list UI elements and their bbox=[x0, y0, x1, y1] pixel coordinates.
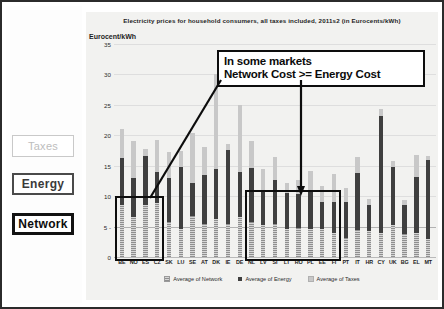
bar-segment-network-AT bbox=[202, 224, 206, 257]
bar-segment-network-MT bbox=[426, 239, 430, 257]
bar-segment-network-EL bbox=[414, 233, 418, 257]
bar-group-SK bbox=[163, 44, 175, 257]
bar-segment-taxes-NO bbox=[131, 141, 135, 178]
bar-segment-energy-MT bbox=[426, 160, 430, 239]
y-tick-label-20: 20 bbox=[104, 132, 111, 139]
legend-item-energy: Average of Energy bbox=[238, 276, 291, 282]
stacked-bar-PT bbox=[344, 188, 348, 257]
bar-segment-taxes-LU bbox=[179, 151, 183, 167]
bar-segment-network-IE bbox=[226, 224, 230, 257]
x-label-BG: BG bbox=[399, 259, 411, 271]
bar-segment-network-LU bbox=[179, 229, 183, 257]
bar-segment-taxes-PT bbox=[344, 188, 348, 203]
bar-segment-energy-AT bbox=[202, 175, 206, 224]
y-tick-label-25: 25 bbox=[104, 101, 111, 108]
stacked-bar-SE bbox=[190, 133, 194, 257]
bar-segment-energy-LU bbox=[179, 167, 183, 229]
bar-segment-network-PT bbox=[344, 238, 348, 257]
bar-segment-energy-SE bbox=[190, 183, 194, 216]
stacked-bar-LU bbox=[179, 151, 183, 257]
bar-segment-energy-UK bbox=[391, 167, 395, 225]
bar-group-LU bbox=[175, 44, 187, 257]
legend-side-column: Taxes Energy Network bbox=[6, 6, 82, 303]
legend-label-energy: Average of Energy bbox=[245, 276, 291, 282]
stacked-bar-AT bbox=[202, 147, 206, 257]
legend-item-network: Average of Network bbox=[164, 276, 222, 282]
callout-line-2: Network Cost >= Energy Cost bbox=[224, 68, 418, 81]
legend-item-taxes: Average of Taxes bbox=[308, 276, 360, 282]
side-label-taxes: Taxes bbox=[12, 135, 74, 157]
stacked-bar-HR bbox=[367, 199, 371, 257]
x-label-AT: AT bbox=[198, 259, 210, 271]
bar-segment-taxes-IT bbox=[355, 157, 359, 173]
bar-segment-network-DE bbox=[238, 217, 242, 257]
x-label-MT: MT bbox=[422, 259, 434, 271]
bar-segment-energy-BG bbox=[402, 205, 406, 234]
x-label-PT: PT bbox=[340, 259, 352, 271]
bar-segment-network-IT bbox=[355, 230, 359, 257]
bar-group-SE bbox=[187, 44, 199, 257]
y-tick-label-0: 0 bbox=[108, 254, 111, 261]
x-label-EL: EL bbox=[411, 259, 423, 271]
x-label-IE: IE bbox=[222, 259, 234, 271]
bar-segment-taxes-EL bbox=[414, 155, 418, 177]
stacked-bar-MT bbox=[426, 156, 430, 257]
y-tick-label-15: 15 bbox=[104, 162, 111, 169]
legend-swatch-taxes-icon bbox=[308, 276, 314, 282]
bar-segment-network-SK bbox=[167, 222, 171, 257]
bar-segment-network-CY bbox=[379, 233, 383, 257]
bar-segment-energy-IE bbox=[226, 150, 230, 224]
side-label-energy: Energy bbox=[12, 173, 74, 195]
stacked-bar-DK bbox=[214, 74, 218, 257]
stacked-bar-EL bbox=[414, 155, 418, 257]
side-label-network: Network bbox=[12, 213, 74, 235]
stacked-bar-SK bbox=[167, 152, 171, 257]
bar-segment-taxes-DK bbox=[214, 74, 218, 169]
bar-segment-network-BG bbox=[402, 234, 406, 257]
stacked-bar-CY bbox=[379, 109, 383, 257]
bar-segment-taxes-CY bbox=[379, 109, 383, 116]
stacked-bar-IE bbox=[226, 144, 230, 257]
stacked-bar-BG bbox=[402, 200, 406, 257]
y-tick-label-5: 5 - bbox=[104, 223, 111, 230]
y-tick-label-30: 30 bbox=[104, 71, 111, 78]
bar-segment-network-DK bbox=[214, 219, 218, 257]
bar-segment-energy-DE bbox=[238, 172, 242, 217]
bar-segment-taxes-NL bbox=[249, 141, 253, 168]
bar-segment-energy-HR bbox=[367, 205, 371, 232]
legend-label-network: Average of Network bbox=[173, 276, 222, 282]
bar-segment-taxes-LV bbox=[261, 169, 265, 190]
highlight-box-group-1 bbox=[115, 196, 164, 261]
legend-swatch-network-icon bbox=[164, 276, 170, 282]
y-tick-label-35: 35 bbox=[104, 41, 111, 48]
bar-segment-energy-CY bbox=[379, 116, 383, 233]
bar-segment-taxes-PL bbox=[308, 171, 312, 192]
legend-swatch-energy-icon bbox=[238, 277, 242, 281]
bar-segment-network-SE bbox=[190, 216, 194, 257]
side-label-energy-text: Energy bbox=[22, 177, 64, 191]
stacked-bar-DE bbox=[238, 105, 242, 257]
y-tick-label-10: 10 bbox=[104, 193, 111, 200]
bar-group-AT bbox=[198, 44, 210, 257]
y-axis-title: Eurocent/kWh bbox=[89, 33, 136, 40]
bar-segment-network-HR bbox=[367, 231, 371, 257]
legend-label-taxes: Average of Taxes bbox=[317, 276, 360, 282]
chart-title: Electricity prices for household consume… bbox=[86, 17, 438, 24]
bar-segment-energy-IT bbox=[355, 173, 359, 230]
side-label-taxes-text: Taxes bbox=[28, 140, 58, 152]
x-label-SK: SK bbox=[163, 259, 175, 271]
bar-segment-energy-PT bbox=[344, 202, 348, 237]
x-label-LU: LU bbox=[175, 259, 187, 271]
bar-segment-energy-EL bbox=[414, 177, 418, 233]
stacked-bar-IT bbox=[355, 157, 359, 257]
callout-line-1: In some markets bbox=[224, 55, 418, 68]
bar-segment-energy-SK bbox=[167, 178, 171, 222]
x-label-CY: CY bbox=[375, 259, 387, 271]
x-label-UK: UK bbox=[387, 259, 399, 271]
bar-segment-taxes-DE bbox=[238, 105, 242, 172]
bar-segment-taxes-SI bbox=[273, 157, 277, 180]
x-label-DK: DK bbox=[210, 259, 222, 271]
side-label-network-text: Network bbox=[18, 217, 67, 231]
x-label-SE: SE bbox=[187, 259, 199, 271]
slide-canvas: Taxes Energy Network Electricity prices … bbox=[0, 0, 444, 309]
